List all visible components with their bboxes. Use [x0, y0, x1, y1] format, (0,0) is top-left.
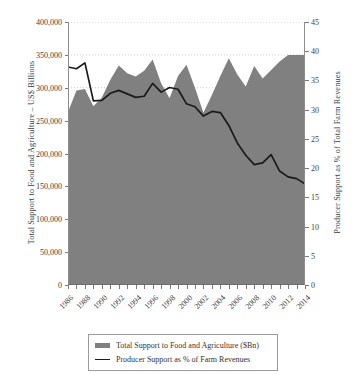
x-axis-tick-mark — [170, 285, 171, 289]
x-axis-tick-mark — [178, 285, 179, 289]
y-axis-right-tick-label: 20 — [311, 164, 335, 173]
legend-item-producer-support: Producer Support as % of Farm Revenues — [95, 353, 271, 365]
y-axis-right-tick-label: 45 — [311, 18, 335, 27]
x-axis-tick-mark — [187, 285, 188, 289]
x-axis-tick-mark — [288, 285, 289, 289]
x-axis-tick-mark — [203, 285, 204, 289]
x-axis-tick-mark — [237, 285, 238, 289]
x-axis-tick-mark — [68, 285, 69, 289]
x-axis-tick-mark — [76, 285, 77, 289]
y-axis-right-tick-mark — [305, 227, 309, 228]
y-axis-left-tick-label: 350,000 — [6, 50, 62, 59]
y-axis-right-title: Producer Support as % of Total Farm Reve… — [333, 38, 342, 268]
y-axis-right-tick-mark — [305, 197, 309, 198]
y-axis-left-tick-mark — [65, 154, 69, 155]
legend-item-total-support: Total Support to Food and Agriculture ($… — [95, 339, 271, 351]
chart-figure: Total Support to Food and Agriculture – … — [0, 0, 361, 375]
y-axis-left-tick-label: 400,000 — [6, 18, 62, 27]
y-axis-right-tick-label: 40 — [311, 47, 335, 56]
y-axis-right-tick-mark — [305, 22, 309, 23]
y-axis-right-tick-label: 25 — [311, 134, 335, 143]
y-axis-right-tick-mark — [305, 139, 309, 140]
y-axis-left-tick-mark — [65, 252, 69, 253]
y-axis-right-tick-mark — [305, 110, 309, 111]
x-axis-tick-mark — [297, 285, 298, 289]
y-axis-right-tick-label: 0 — [311, 281, 335, 290]
y-axis-right-tick-mark — [305, 256, 309, 257]
y-axis-left-tick-label: 150,000 — [6, 182, 62, 191]
y-axis-left-tick-label: 250,000 — [6, 116, 62, 125]
x-axis-tick-mark — [305, 285, 306, 289]
x-axis-tick-mark — [271, 285, 272, 289]
x-axis-tick-mark — [119, 285, 120, 289]
plot-area — [68, 22, 305, 285]
y-axis-right-tick-mark — [305, 51, 309, 52]
x-axis-tick-mark — [220, 285, 221, 289]
x-axis-tick-mark — [246, 285, 247, 289]
area-swatch-icon — [95, 343, 110, 348]
y-axis-right-tick-mark — [305, 168, 309, 169]
x-axis-tick-mark — [136, 285, 137, 289]
y-axis-left-tick-label: 0 — [6, 281, 62, 290]
y-axis-right-tick-mark — [305, 80, 309, 81]
y-axis-right-tick-label: 5 — [311, 251, 335, 260]
y-axis-left-tick-label: 300,000 — [6, 83, 62, 92]
x-axis-tick-mark — [229, 285, 230, 289]
x-axis-tick-mark — [153, 285, 154, 289]
y-axis-right-tick-label: 10 — [311, 222, 335, 231]
chart-legend: Total Support to Food and Agriculture ($… — [88, 334, 278, 371]
x-axis-tick-mark — [212, 285, 213, 289]
y-axis-left-tick-label: 200,000 — [6, 149, 62, 158]
y-axis-left-tick-mark — [65, 88, 69, 89]
y-axis-right-tick-label: 15 — [311, 193, 335, 202]
x-axis-tick-mark — [85, 285, 86, 289]
x-axis-tick-mark — [144, 285, 145, 289]
y-axis-right-tick-label: 35 — [311, 76, 335, 85]
y-axis-left-tick-mark — [65, 186, 69, 187]
legend-label: Producer Support as % of Farm Revenues — [116, 355, 250, 364]
x-axis-tick-mark — [195, 285, 196, 289]
plot-frame — [68, 22, 305, 285]
y-axis-left-tick-mark — [65, 219, 69, 220]
x-axis-tick-mark — [127, 285, 128, 289]
x-axis-tick-mark — [263, 285, 264, 289]
legend-label: Total Support to Food and Agriculture ($… — [116, 341, 259, 350]
y-axis-right-tick-label: 30 — [311, 105, 335, 114]
line-swatch-icon — [95, 359, 110, 360]
x-axis-tick-mark — [110, 285, 111, 289]
x-axis-tick-mark — [102, 285, 103, 289]
y-axis-left-tick-mark — [65, 22, 69, 23]
y-axis-left-tick-label: 100,000 — [6, 215, 62, 224]
x-axis-tick-mark — [254, 285, 255, 289]
y-axis-left-tick-label: 50,000 — [6, 248, 62, 257]
x-axis-tick-mark — [161, 285, 162, 289]
x-axis-tick-mark — [93, 285, 94, 289]
x-axis-tick-mark — [280, 285, 281, 289]
y-axis-left-tick-mark — [65, 55, 69, 56]
y-axis-left-tick-mark — [65, 121, 69, 122]
